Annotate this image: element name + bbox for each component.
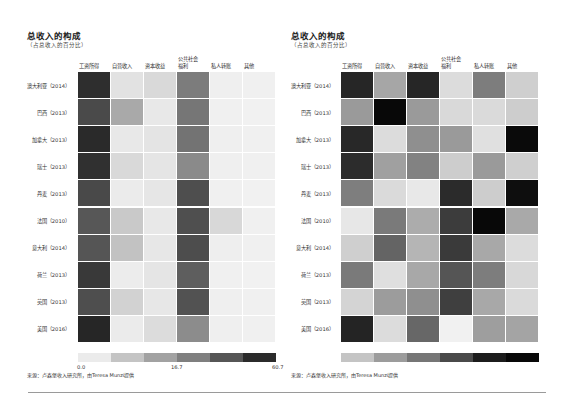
chart-title: 总收入的构成 [27,29,81,41]
heatmap-cell [111,72,144,99]
heatmap-cell [506,235,539,262]
chart-subtitle: （占总收入的百分比） [27,41,87,49]
heatmap-cell [111,208,144,235]
heatmap-cell [111,316,144,343]
heatmap-cell [374,99,407,126]
heatmap-cell [473,126,506,153]
heatmap-cell [111,289,144,316]
row-label: 瑞士（2013） [301,163,334,170]
heatmap-cell [243,72,276,99]
heatmap-cell [177,126,210,153]
column-header: 其他 [244,63,254,70]
row-label: 丹麦（2013） [37,190,70,197]
heatmap-cell [111,180,144,207]
heatmap-cell [144,180,177,207]
heatmap-cell [243,180,276,207]
colorbar-tick-label: 0.0 [77,364,85,370]
heatmap-cell [177,289,210,316]
heatmap-cell [341,289,374,316]
heatmap-cell [177,316,210,343]
heatmap-cell [210,208,243,235]
heatmap-cell [440,72,473,99]
heatmap-cell [407,153,440,180]
row-label: 澳大利亚（2014） [291,82,334,89]
heatmap-cell [440,208,473,235]
heatmap-cell [177,262,210,289]
colorbar [78,353,276,362]
row-label: 加拿大（2013） [32,136,70,143]
heatmap-cell [243,126,276,153]
row-label: 英国（2013） [301,298,334,305]
column-header-line: 福利 [441,63,461,70]
heatmap-cell [341,316,374,343]
column-header-line: 资本收益 [408,63,428,70]
row-label: 巴西（2013） [301,109,334,116]
row-label: 美国（2016） [301,325,334,332]
heatmap-cell [506,262,539,289]
heatmap-cell [440,126,473,153]
heatmap-cell [407,316,440,343]
colorbar-segment [473,353,506,362]
heatmap-cell [243,262,276,289]
row-label: 美国（2016） [37,325,70,332]
heatmap-cell [473,208,506,235]
heatmap-cell [144,72,177,99]
heatmap-cell [374,126,407,153]
bottom-rule [28,392,546,393]
heatmap-cell [506,126,539,153]
heatmap-cell [78,72,111,99]
heatmap-cell [177,153,210,180]
heatmap-cell [374,289,407,316]
heatmap-cell [210,235,243,262]
column-header: 工资所得 [342,63,362,70]
heatmap-cell [473,72,506,99]
heatmap-cell [506,153,539,180]
colorbar-segment [210,353,243,362]
heatmap-cell [144,316,177,343]
heatmap-cell [78,289,111,316]
column-header-line: 公共社会 [441,56,461,63]
heatmap-cell [473,180,506,207]
heatmap-cell [407,289,440,316]
heatmap-cell [473,316,506,343]
heatmap-cell [243,99,276,126]
heatmap-cell [243,289,276,316]
column-header-line: 福利 [178,63,198,70]
row-label: 法国（2010） [301,217,334,224]
heatmap-cell [78,316,111,343]
heatmap-cell [144,99,177,126]
column-header: 自营收入 [112,63,132,70]
column-header-line: 其他 [244,63,254,70]
heatmap-cell [506,208,539,235]
heatmap-cell [341,180,374,207]
heatmap-cell [111,153,144,180]
row-label: 瑞士（2013） [37,163,70,170]
heatmap-cell [407,72,440,99]
colorbar-segment [506,353,539,362]
column-header-line: 其他 [507,63,517,70]
heatmap-cell [177,180,210,207]
column-header-line: 工资所得 [79,63,99,70]
heatmap-cell [243,208,276,235]
heatmap-cell [407,99,440,126]
heatmap-cell [111,262,144,289]
row-label: 澳大利亚（2014） [27,82,70,89]
heatmap-cell [407,180,440,207]
heatmap-cell [407,208,440,235]
heatmap-grid [78,72,276,343]
heatmap-cell [210,316,243,343]
colorbar-segment [243,353,276,362]
column-header-line: 自营收入 [112,63,132,70]
heatmap-cell [243,235,276,262]
column-header: 私人转账 [474,63,494,70]
heatmap-cell [111,126,144,153]
heatmap-cell [243,316,276,343]
heatmap-cell [473,99,506,126]
heatmap-cell [341,126,374,153]
row-label: 意大利（2014） [32,244,70,251]
colorbar-segment [177,353,210,362]
column-header: 资本收益 [408,63,428,70]
heatmap-cell [440,235,473,262]
right-heatmap-panel: 总收入的构成（占总收入的百分比）工资所得自营收入资本收益公共社会福利私人转账其他… [282,0,564,399]
heatmap-cell [506,99,539,126]
